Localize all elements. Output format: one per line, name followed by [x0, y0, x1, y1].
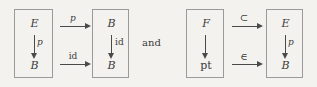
horizontal-arrow-left-bottom [60, 64, 86, 65]
object-F-right-source: F [187, 18, 225, 29]
right-target-square-box: E p B [266, 9, 303, 78]
vertical-arrow-label-left-target: id [115, 38, 124, 47]
right-source-square-box: F pt [186, 9, 224, 78]
horizontal-arrow-left-top [60, 26, 86, 27]
vertical-arrow-label-left-source: p [37, 38, 43, 47]
horizontal-arrow-label-right-top: ⊂ [233, 13, 255, 23]
object-B-left-target-bottom: B [93, 60, 130, 71]
object-E-left-source: E [15, 18, 54, 29]
object-pt-right-source: pt [187, 60, 225, 71]
commutative-diagram-figure: E p B p id B id B and F pt ⊂ ∈ E p B [0, 0, 317, 87]
vertical-arrow-left-source [34, 35, 35, 54]
conjunction-and: and [142, 38, 161, 48]
object-E-right-target: E [267, 18, 304, 29]
object-B-left-source: B [15, 60, 54, 71]
horizontal-arrow-right-bottom [232, 64, 258, 65]
vertical-arrow-right-target [285, 35, 286, 54]
object-B-left-target-top: B [93, 18, 130, 29]
horizontal-arrow-label-right-bottom: ∈ [233, 52, 255, 62]
left-source-square-box: E p B [14, 9, 53, 78]
left-target-square-box: B id B [92, 9, 129, 78]
vertical-arrow-right-source [205, 35, 206, 54]
vertical-arrow-left-target [111, 35, 112, 54]
horizontal-arrow-label-left-bottom: id [61, 52, 85, 61]
vertical-arrow-label-right-target: p [288, 38, 294, 47]
object-B-right-target: B [267, 60, 304, 71]
horizontal-arrow-right-top [232, 26, 258, 27]
horizontal-arrow-label-left-top: p [62, 14, 84, 23]
